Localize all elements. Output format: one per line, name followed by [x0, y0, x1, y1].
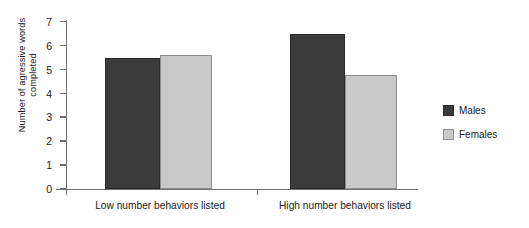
x-axis-tick-mark	[66, 189, 67, 195]
legend-label-females: Females	[459, 129, 497, 141]
bar-chart: Number of agressive words completed 7654…	[0, 0, 529, 228]
legend-swatch-females	[443, 129, 454, 140]
y-axis-tick-label: 0	[22, 183, 52, 195]
legend-item-females: Females	[443, 126, 497, 143]
legend: MalesFemales	[443, 102, 497, 150]
y-axis-tick: 4	[0, 88, 66, 100]
y-axis-tick: 6	[0, 40, 66, 52]
y-axis-tick-label: 1	[22, 159, 52, 171]
y-axis-tick-label: 4	[22, 88, 52, 100]
y-axis-tick-label: 7	[22, 16, 52, 28]
bar-males-group2	[290, 34, 345, 189]
x-axis-category-label: Low number behaviors listed	[95, 199, 225, 212]
x-axis-tick-mark	[257, 189, 258, 195]
y-axis-tick: 7	[0, 16, 66, 28]
plot-area	[66, 22, 418, 189]
y-axis-tick: 3	[0, 111, 66, 123]
bar-females-group1	[160, 55, 212, 189]
y-axis-tick-label: 2	[22, 135, 52, 147]
legend-item-males: Males	[443, 102, 497, 119]
x-axis-category-label: High number behaviors listed	[279, 199, 411, 212]
x-axis-line	[56, 189, 418, 190]
y-axis-tick: 0	[0, 183, 66, 195]
y-axis-tick: 5	[0, 64, 66, 76]
bar-males-group1	[105, 58, 160, 189]
legend-swatch-males	[443, 105, 454, 116]
y-axis-tick-label: 6	[22, 40, 52, 52]
legend-label-males: Males	[459, 105, 486, 117]
y-axis-tick: 1	[0, 159, 66, 171]
y-axis-tick: 2	[0, 135, 66, 147]
y-axis-tick-label: 3	[22, 111, 52, 123]
y-axis-tick-label: 5	[22, 64, 52, 76]
bar-females-group2	[345, 75, 397, 190]
